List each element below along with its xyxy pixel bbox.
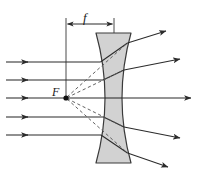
diverging-lens-figure: f F <box>0 0 198 178</box>
focal-point-label: F <box>52 85 59 100</box>
focal-point-dot <box>63 95 68 100</box>
ray-diagram-canvas <box>0 0 198 178</box>
focal-length-label: f <box>83 10 87 26</box>
